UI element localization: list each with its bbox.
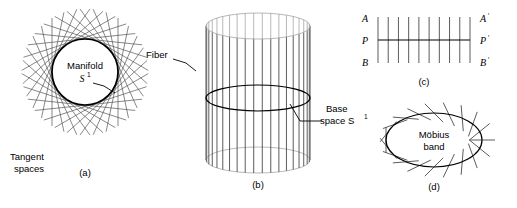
base-space-leader-line: [290, 104, 322, 121]
mobius-band-label-line2: band: [423, 141, 444, 152]
base-space-label-line1: Base: [326, 103, 348, 114]
corner-label-a: A: [361, 13, 369, 24]
panel-letter-a: (a): [79, 167, 91, 178]
figure-svg: Manifold S 1 Tangent spaces (a) Fiber Ba…: [0, 0, 517, 208]
panel-b: Fiber Base space S 1 (b): [146, 13, 368, 190]
manifold-label-symbol: S: [80, 73, 85, 84]
mobius-band-label-line1: Möbius: [419, 129, 450, 140]
panel-c: A P B A ′ P ′ B ′ (c): [361, 12, 490, 87]
figure-container: Manifold S 1 Tangent spaces (a) Fiber Ba…: [0, 0, 517, 208]
tangent-spaces-line1: Tangent: [10, 151, 44, 162]
manifold-label-superscript: 1: [87, 71, 91, 78]
base-space-circle: [206, 85, 310, 111]
corner-label-b-prime-mark: ′: [488, 56, 490, 63]
panel-a: Manifold S 1 Tangent spaces (a): [10, 9, 148, 178]
panel-d: Möbius band (d): [380, 103, 495, 192]
midpoint-label-p-prime: P: [479, 35, 486, 46]
manifold-label-line1: Manifold: [67, 60, 103, 71]
panel-letter-d: (d): [428, 181, 440, 192]
fiber-leader-line: [173, 59, 196, 71]
midpoint-label-p-prime-mark: ′: [488, 34, 490, 41]
base-space-label-line2: space S: [320, 115, 354, 126]
tangent-spaces-line2: spaces: [14, 163, 44, 174]
corner-label-a-prime-mark: ′: [488, 12, 490, 19]
panel-letter-c: (c): [418, 76, 429, 87]
midpoint-label-p: P: [361, 35, 368, 46]
base-space-label-superscript: 1: [364, 113, 368, 120]
fiber-label: Fiber: [146, 49, 168, 60]
corner-label-b: B: [362, 57, 368, 68]
corner-label-b-prime: B: [480, 57, 486, 68]
panel-letter-b: (b): [252, 179, 264, 190]
cylinder-bottom-ellipse: [206, 147, 310, 173]
corner-label-a-prime: A: [479, 13, 487, 24]
